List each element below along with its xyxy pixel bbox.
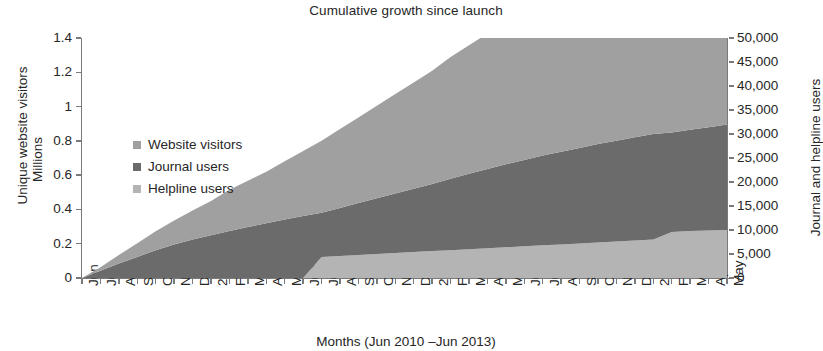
- x-axis-tick: [321, 279, 322, 284]
- x-axis-tick: [579, 279, 580, 284]
- y-axis-right-tick: [729, 109, 734, 110]
- x-axis-tick: [339, 279, 340, 284]
- y-axis-right-tick-label: 50,000: [737, 31, 797, 45]
- y-axis-left-tick: [76, 72, 81, 73]
- x-axis-tick: [358, 279, 359, 284]
- y-axis-right-tick-label: 20,000: [737, 175, 797, 189]
- x-axis-tick: [542, 279, 543, 284]
- y-axis-left-tick-label: 1: [24, 100, 72, 114]
- y-axis-right-title: Journal and helpline users: [808, 33, 823, 283]
- x-axis-tick: [634, 279, 635, 284]
- y-axis-right-tick: [729, 37, 734, 38]
- y-axis-left-tick-label: 0.4: [24, 202, 72, 216]
- y-axis-right-tick: [729, 205, 734, 206]
- x-axis-tick: [395, 279, 396, 284]
- y-axis-right-tick-label: 30,000: [737, 127, 797, 141]
- y-axis-left-tick: [76, 37, 81, 38]
- y-axis-right-tick: [729, 85, 734, 86]
- legend-item-label: Website visitors: [148, 138, 242, 152]
- x-axis-tick: [505, 279, 506, 284]
- x-axis-tick: [284, 279, 285, 284]
- x-axis-tick: [155, 279, 156, 284]
- y-axis-left-tick: [76, 106, 81, 107]
- y-axis-right-tick-label: 35,000: [737, 103, 797, 117]
- y-axis-left-tick: [76, 140, 81, 141]
- x-axis-title: Months (Jun 2010 –Jun 2013): [0, 334, 812, 349]
- legend-swatch-icon: [133, 141, 141, 149]
- y-axis-right-tick: [729, 157, 734, 158]
- y-axis-right-tick-label: 5,000: [737, 247, 797, 261]
- y-axis-left-tick: [76, 209, 81, 210]
- x-axis-tick: [450, 279, 451, 284]
- x-axis-tick: [413, 279, 414, 284]
- y-axis-left-tick: [76, 277, 81, 278]
- y-axis-left-tick-label: 0: [24, 271, 72, 285]
- chart-title: Cumulative growth since launch: [0, 3, 812, 18]
- x-axis-tick: [487, 279, 488, 284]
- y-axis-right-tick-label: 0: [737, 271, 797, 285]
- y-axis-left-tick-label: 1.2: [24, 65, 72, 79]
- legend-item: Helpline users: [133, 178, 242, 200]
- y-axis-right-tick: [729, 61, 734, 62]
- y-axis-right-tick: [729, 133, 734, 134]
- y-axis-left-tick: [76, 174, 81, 175]
- x-axis-tick: [266, 279, 267, 284]
- x-axis-tick: [431, 279, 432, 284]
- y-axis-right-tick-label: 15,000: [737, 199, 797, 213]
- legend-item-label: Helpline users: [148, 182, 234, 196]
- x-axis-tick: [137, 279, 138, 284]
- legend-swatch-icon: [133, 163, 141, 171]
- y-axis-left-tick: [76, 243, 81, 244]
- y-axis-left-tick-label: 0.8: [24, 134, 72, 148]
- x-axis-tick: [118, 279, 119, 284]
- x-axis-tick: [524, 279, 525, 284]
- x-axis-tick: [302, 279, 303, 284]
- legend-item-label: Journal users: [148, 160, 229, 174]
- x-axis-tick-label: May: [732, 260, 746, 286]
- legend-swatch-icon: [133, 185, 141, 193]
- x-axis-tick: [653, 279, 654, 284]
- x-axis-tick: [81, 279, 82, 284]
- y-axis-right-tick-label: 10,000: [737, 223, 797, 237]
- legend-item: Journal users: [133, 156, 242, 178]
- y-axis-right-tick-label: 45,000: [737, 55, 797, 69]
- x-axis-tick: [671, 279, 672, 284]
- y-axis-left-tick-label: 0.2: [24, 237, 72, 251]
- x-axis-tick: [560, 279, 561, 284]
- x-axis-tick: [689, 279, 690, 284]
- y-axis-right-tick: [729, 181, 734, 182]
- y-axis-left-tick-label: 1.4: [24, 31, 72, 45]
- y-axis-right-tick-label: 40,000: [737, 79, 797, 93]
- x-axis-tick: [229, 279, 230, 284]
- y-axis-right-tick: [729, 229, 734, 230]
- x-axis-tick: [100, 279, 101, 284]
- x-axis-tick: [616, 279, 617, 284]
- y-axis-left-tick-label: 0.6: [24, 168, 72, 182]
- x-axis-tick: [597, 279, 598, 284]
- x-axis-tick: [247, 279, 248, 284]
- x-axis-tick: [708, 279, 709, 284]
- x-axis-tick: [210, 279, 211, 284]
- x-axis-tick: [376, 279, 377, 284]
- y-axis-right-tick: [729, 253, 734, 254]
- x-axis-tick: [173, 279, 174, 284]
- x-axis-tick: [192, 279, 193, 284]
- chart-legend: Website visitorsJournal usersHelpline us…: [133, 134, 242, 200]
- x-axis-tick: [468, 279, 469, 284]
- x-axis-tick: [726, 279, 727, 284]
- y-axis-right-tick-label: 25,000: [737, 151, 797, 165]
- legend-item: Website visitors: [133, 134, 242, 156]
